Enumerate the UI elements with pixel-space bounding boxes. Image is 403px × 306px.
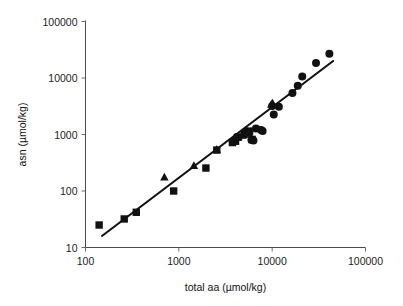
scatter-plot: 10100100010000100000 100100010000100000 … (0, 0, 403, 306)
y-tick-label: 1000 (54, 129, 78, 141)
x-tick-label: 10000 (258, 255, 287, 267)
data-point-circle (325, 50, 333, 58)
chart-figure: 10100100010000100000 100100010000100000 … (0, 0, 403, 306)
data-point-circle (245, 129, 253, 137)
data-point-circle (233, 133, 241, 141)
plot-background (0, 0, 403, 306)
x-tick-label: 100 (77, 255, 95, 267)
data-point-circle (275, 103, 283, 111)
y-tick-label: 100 (60, 185, 78, 197)
y-tick-label: 10 (66, 242, 78, 254)
x-axis-title: total aa (µmol/kg) (185, 281, 266, 293)
data-point-square (121, 215, 128, 222)
data-point-circle (298, 73, 306, 81)
data-point-square (133, 209, 140, 216)
y-tick-label: 10000 (48, 72, 77, 84)
y-tick-label: 100000 (42, 16, 77, 28)
data-point-square (170, 187, 177, 194)
x-tick-label: 1000 (167, 255, 191, 267)
data-point-square (95, 221, 102, 228)
data-point-square (202, 164, 209, 171)
data-point-circle (270, 111, 278, 119)
data-point-circle (249, 137, 257, 145)
data-point-circle (259, 127, 267, 135)
data-point-circle (312, 59, 320, 67)
y-axis-title: asn (µmol/kg) (16, 103, 28, 167)
data-point-circle (288, 89, 296, 97)
data-point-circle (294, 82, 302, 90)
x-tick-label: 100000 (348, 255, 383, 267)
